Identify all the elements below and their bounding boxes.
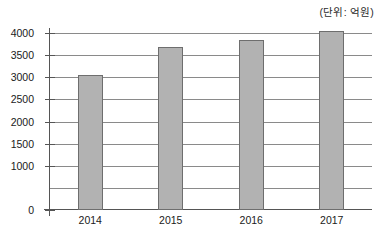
y-axis-tick [45,77,55,78]
y-axis-tick [45,166,55,167]
y-axis-tick [45,55,55,56]
x-axis-label-2014: 2014 [60,214,120,226]
bar-2017 [319,31,344,210]
y-axis-tick-label: 3000 [0,71,34,83]
y-axis-tick-label: 4000 [0,27,34,39]
y-axis-tick-label: 2000 [0,116,34,128]
bar-2014 [78,75,103,210]
x-axis-label-2016: 2016 [221,214,281,226]
y-axis-tick-label: 1000 [0,160,34,172]
y-axis-tick [45,99,55,100]
y-axis-tick [45,210,55,211]
bar-2015 [158,47,183,210]
plot-area: 01000150020002500300035004000 [50,33,372,210]
y-axis-tick [45,33,55,34]
x-axis-label-2015: 2015 [141,214,201,226]
bar-2016 [239,40,264,210]
y-axis-tick [45,122,55,123]
y-axis-tick-label: 0 [0,204,34,216]
y-axis-tick-label: 1500 [0,138,34,150]
y-axis-tick-label: 2500 [0,93,34,105]
y-axis-tick [45,144,55,145]
y-axis-tick-label: 3500 [0,49,34,61]
x-axis-label-2017: 2017 [302,214,362,226]
unit-note-label: (단위: 억원) [320,4,374,19]
bar-chart: (단위: 억원) 01000150020002500300035004000 2… [0,0,384,239]
